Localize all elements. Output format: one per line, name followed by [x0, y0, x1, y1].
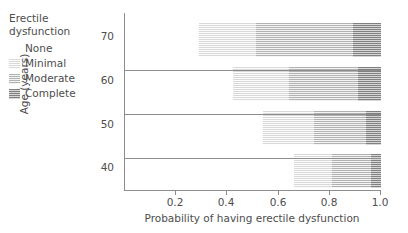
bar-row-age-40 — [125, 154, 381, 188]
bar-segment-moderate-age-40 — [332, 154, 370, 188]
row-separator-3 — [125, 158, 381, 159]
x-tick-mark-1.0 — [380, 190, 381, 195]
bar-segment-moderate-age-50 — [314, 111, 365, 145]
x-tick-mark-0.6 — [278, 190, 279, 195]
y-tick-label-60: 60 — [88, 74, 114, 86]
x-axis-line — [124, 190, 380, 191]
x-tick-label-1.0: 1.0 — [372, 196, 389, 208]
row-separator-1 — [125, 70, 381, 71]
bar-segment-none-age-70 — [125, 23, 199, 57]
bar-segment-complete-age-60 — [358, 67, 381, 101]
legend-label-minimal: Minimal — [25, 56, 66, 71]
x-tick-mark-0.8 — [329, 190, 330, 195]
bar-row-age-60 — [125, 67, 381, 101]
x-tick-mark-0.2 — [175, 190, 176, 195]
plot-area — [124, 13, 381, 190]
bars-container — [125, 13, 381, 190]
x-axis-title: Probability of having erectile dysfuncti… — [124, 212, 380, 224]
bar-segment-complete-age-40 — [371, 154, 381, 188]
bar-segment-minimal-age-40 — [294, 154, 332, 188]
bar-segment-moderate-age-70 — [256, 23, 353, 57]
bar-segment-none-age-60 — [125, 67, 233, 101]
bar-segment-minimal-age-60 — [233, 67, 289, 101]
bar-segment-none-age-40 — [125, 154, 294, 188]
x-tick-mark-0.4 — [226, 190, 227, 195]
y-tick-label-50: 50 — [88, 118, 114, 130]
y-tick-label-70: 70 — [88, 30, 114, 42]
bar-row-age-70 — [125, 23, 381, 57]
bar-segment-moderate-age-60 — [289, 67, 358, 101]
x-tick-label-0.8: 0.8 — [321, 196, 338, 208]
legend-title-line-1: Erectile — [9, 12, 119, 25]
bar-segment-minimal-age-70 — [199, 23, 255, 57]
x-tick-label-0.6: 0.6 — [270, 196, 287, 208]
legend-swatch-none-icon — [9, 44, 20, 54]
chart-figure: Erectile dysfunction None Minimal Modera… — [0, 0, 408, 233]
legend-label-complete: Complete — [25, 86, 76, 101]
row-separator-2 — [125, 114, 381, 115]
y-axis-title: Age (years) — [18, 54, 30, 115]
bar-segment-complete-age-50 — [366, 111, 381, 145]
y-tick-label-40: 40 — [88, 161, 114, 173]
x-tick-label-0.4: 0.4 — [218, 196, 235, 208]
bar-segment-complete-age-70 — [353, 23, 381, 57]
bar-segment-minimal-age-50 — [263, 111, 314, 145]
bar-segment-none-age-50 — [125, 111, 263, 145]
x-tick-label-0.2: 0.2 — [167, 196, 184, 208]
legend-label-moderate: Moderate — [25, 71, 75, 86]
bar-row-age-50 — [125, 111, 381, 145]
